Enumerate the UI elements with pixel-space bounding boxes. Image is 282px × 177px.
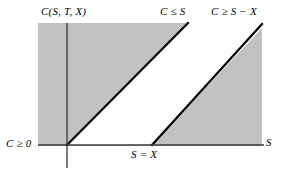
x-axis-label: S [266,136,272,148]
strike-marker-label: S = X [131,148,157,160]
nonnegativity-label: C ≥ 0 [6,137,31,149]
upper-bound-label: C ≤ S [160,5,185,17]
y-axis-label: C(S, T, X) [41,5,86,17]
call-option-bounds-figure: C(S, T, X) C ≤ S C ≥ S − X C ≥ 0 S = X S [0,0,282,177]
lower-bound-label: C ≥ S − X [211,5,257,17]
